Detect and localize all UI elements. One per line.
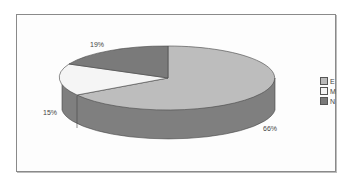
legend-swatch-n [320, 97, 328, 105]
legend-item-m[interactable]: M [320, 86, 336, 96]
pie-chart [0, 0, 354, 185]
label-e: 66% [263, 125, 277, 132]
label-n: 19% [90, 41, 104, 48]
legend: E M N [320, 76, 336, 106]
legend-swatch-m [320, 87, 328, 95]
legend-label-m: M [330, 88, 336, 95]
legend-item-n[interactable]: N [320, 96, 336, 106]
label-m: 15% [43, 109, 57, 116]
legend-label-e: E [330, 78, 335, 85]
legend-label-n: N [330, 98, 335, 105]
legend-swatch-e [320, 77, 328, 85]
legend-item-e[interactable]: E [320, 76, 336, 86]
